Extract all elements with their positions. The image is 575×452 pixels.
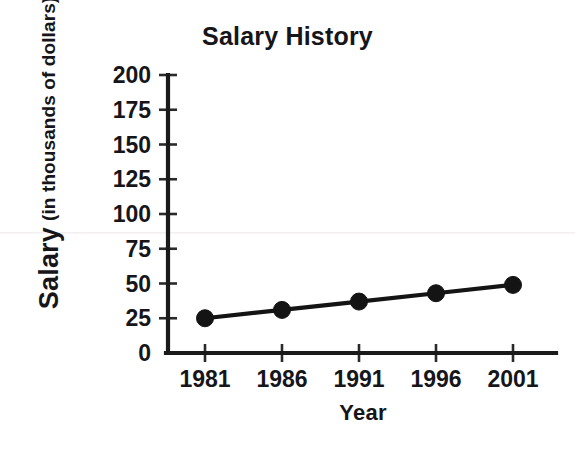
data-point-marker [351, 293, 368, 310]
x-axis-title: Year [168, 400, 558, 426]
y-tick-label: 100 [113, 201, 151, 227]
x-tick-label: 1986 [256, 366, 307, 392]
salary-data-point-group [197, 276, 522, 326]
y-tick-label: 175 [113, 97, 152, 123]
y-tick-label: 75 [125, 236, 151, 262]
plot-area: 0255075100125150175200 19811986199119962… [0, 0, 575, 452]
data-point-marker [428, 285, 445, 302]
y-tick-label: 150 [113, 132, 151, 158]
y-tick-label-group: 0255075100125150175200 [113, 62, 152, 366]
y-tick-label: 125 [113, 166, 152, 192]
x-tick-label-group: 19811986199119962001 [179, 366, 538, 392]
data-point-marker [197, 310, 214, 327]
x-tick-label: 2001 [487, 366, 538, 392]
x-tick-label: 1981 [179, 366, 230, 392]
salary-history-chart-figure: Salary History Salary (in thousands of d… [0, 0, 575, 452]
y-tick-label: 50 [125, 271, 151, 297]
y-tick-label: 200 [113, 62, 151, 88]
data-point-marker [274, 301, 291, 318]
y-tick-label: 25 [125, 305, 151, 331]
x-tick-label: 1991 [333, 366, 384, 392]
x-tick-label: 1996 [410, 366, 461, 392]
y-tick-label: 0 [138, 340, 151, 366]
data-point-marker [505, 276, 522, 293]
